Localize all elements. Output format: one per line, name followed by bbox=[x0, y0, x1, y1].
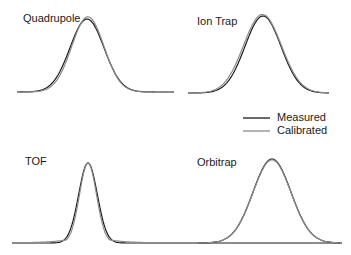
panel-title-orbitrap: Orbitrap bbox=[197, 156, 237, 168]
panel-title-tof: TOF bbox=[25, 155, 47, 167]
peak-tof-measured bbox=[12, 163, 340, 243]
panel-title-iontrap: Ion Trap bbox=[197, 15, 237, 27]
peak-ion-trap-measured bbox=[188, 16, 329, 93]
peak-quadrupole-measured bbox=[17, 19, 174, 92]
peak-orbitrap-calibrated bbox=[198, 160, 342, 243]
legend-measured-label: Measured bbox=[277, 111, 326, 123]
peak-tof-calibrated bbox=[12, 163, 340, 243]
panel-title-quadrupole: Quadrupole bbox=[23, 12, 81, 24]
legend-calibrated-label: Calibrated bbox=[277, 124, 327, 136]
peak-orbitrap-measured bbox=[198, 159, 342, 243]
